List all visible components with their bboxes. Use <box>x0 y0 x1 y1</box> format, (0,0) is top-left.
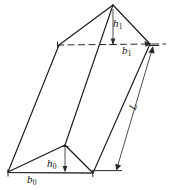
dim-arrow-L-bottom <box>115 164 121 171</box>
edge-bottom-apex-to-right <box>65 145 93 173</box>
label-h0-symbol: h <box>47 157 53 169</box>
hidden-edge-b1 <box>57 44 152 45</box>
label-h1-symbol: h <box>113 17 119 29</box>
label-h1-subscript: 1 <box>119 22 123 31</box>
label-b1: b1 <box>122 45 131 56</box>
edge-lateral-left <box>8 45 59 172</box>
label-h0-subscript: 0 <box>53 162 57 171</box>
prism-drawing <box>0 0 169 190</box>
label-b0-symbol: b <box>27 173 33 185</box>
label-h1: h1 <box>113 18 122 29</box>
label-b1-symbol: b <box>122 44 128 56</box>
label-b0: b0 <box>27 174 36 185</box>
label-b1-subscript: 1 <box>128 49 132 58</box>
dim-arrow-L-top <box>149 46 155 54</box>
figure-container: h1 b1 L h0 b0 <box>0 0 169 190</box>
label-b0-subscript: 0 <box>33 178 37 187</box>
edge-lateral-apex <box>65 5 113 145</box>
label-h0: h0 <box>47 158 56 169</box>
edge-top-apex-to-left <box>59 5 113 45</box>
dim-arrow-h0-bottom <box>63 166 68 173</box>
